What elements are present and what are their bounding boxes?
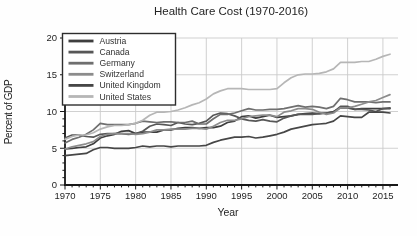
y-axis-label: Percent of GDP <box>3 79 14 144</box>
legend-label: Austria <box>100 36 127 46</box>
x-tick-label: 2005 <box>302 190 323 201</box>
y-tick-label: 0 <box>52 179 57 190</box>
chart-title: Health Care Cost (1970-2016) <box>154 5 308 17</box>
x-axis-label: Year <box>217 206 239 218</box>
x-tick-label: 2000 <box>266 190 287 201</box>
legend-label: Germany <box>100 58 136 68</box>
y-tick-label: 10 <box>46 106 57 117</box>
y-tick-label: 15 <box>46 69 57 80</box>
y-tick-label: 5 <box>52 143 57 154</box>
x-tick-label: 1980 <box>125 190 146 201</box>
y-tick-label: 20 <box>46 32 57 43</box>
legend-label: United States <box>100 92 152 102</box>
legend-label: United Kingdom <box>100 80 161 90</box>
x-tick-label: 2015 <box>372 190 393 201</box>
x-tick-label: 2010 <box>337 190 358 201</box>
x-tick-label: 1975 <box>90 190 111 201</box>
legend: AustriaCanadaGermanySwitzerlandUnited Ki… <box>63 34 176 106</box>
x-tick-label: 1995 <box>231 190 252 201</box>
x-tick-label: 1970 <box>54 190 75 201</box>
legend-label: Switzerland <box>100 69 145 79</box>
health-care-cost-chart: 1970197519801985199019952000200520102015… <box>0 0 417 236</box>
legend-label: Canada <box>100 47 130 57</box>
x-tick-label: 1990 <box>196 190 217 201</box>
chart: 1970197519801985199019952000200520102015… <box>0 0 417 236</box>
x-tick-label: 1985 <box>160 190 181 201</box>
